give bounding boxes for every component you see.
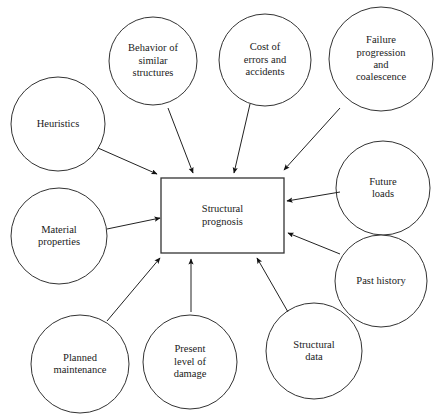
arrow-behavior-to-center bbox=[168, 108, 193, 173]
arrow-future-loads-to-center bbox=[287, 192, 340, 201]
arrow-planned-maintenance-to-center bbox=[107, 258, 160, 321]
center-node-rect[interactable] bbox=[161, 178, 284, 253]
node-circle-structural-data[interactable] bbox=[266, 303, 362, 399]
node-circle-failure-progression-and-coalescence[interactable] bbox=[329, 7, 433, 111]
node-circle-future-loads[interactable] bbox=[336, 141, 430, 235]
node-circle-heuristics[interactable] bbox=[11, 77, 105, 171]
diagram-canvas: Behavior of similar structuresCost of er… bbox=[0, 0, 439, 419]
node-circle-behavior-of-similar-structures[interactable] bbox=[109, 17, 197, 105]
node-circle-planned-maintenance[interactable] bbox=[31, 315, 129, 413]
arrow-structural-data-to-center bbox=[257, 258, 288, 312]
arrow-material-properties-to-center bbox=[107, 218, 160, 229]
arrow-past-history-to-center bbox=[288, 233, 340, 254]
node-circle-past-history[interactable] bbox=[335, 235, 427, 327]
arrow-heuristics-to-center bbox=[98, 148, 157, 174]
arrow-failure-to-center bbox=[284, 108, 340, 170]
diagram-svg bbox=[0, 0, 439, 419]
node-circle-present-level-of-damage[interactable] bbox=[143, 315, 237, 409]
node-shapes-layer bbox=[11, 7, 433, 413]
arrow-cost-to-center bbox=[234, 104, 250, 173]
node-circle-cost-of-errors-and-accidents[interactable] bbox=[219, 14, 311, 106]
node-circle-material-properties[interactable] bbox=[11, 188, 107, 284]
